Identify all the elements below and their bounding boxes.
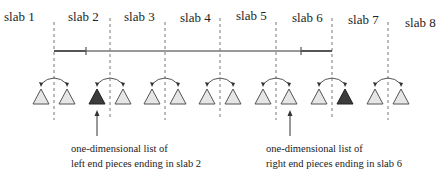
- slab-label: slab 3: [124, 9, 155, 24]
- slab-label: slab 1: [4, 9, 35, 24]
- subtree-left: [144, 89, 160, 104]
- highlighted-subtree-right: [337, 89, 353, 104]
- slab-label: slab 8: [405, 15, 436, 30]
- annotation-line: left end pieces ending in slab 2: [71, 158, 201, 169]
- edge-arrowhead-icon: [65, 82, 69, 87]
- edge-arrowhead-icon: [343, 82, 347, 87]
- tree-edge-right: [220, 78, 233, 84]
- subtree-right: [115, 89, 131, 104]
- slab-label: slab 2: [68, 9, 99, 24]
- tree-edge-right: [388, 78, 401, 84]
- annotation-line: one-dimensional list of: [71, 143, 168, 154]
- slab-label: slab 7: [348, 12, 379, 27]
- tree-edge-right: [332, 78, 345, 84]
- edge-arrowhead-icon: [399, 82, 403, 87]
- edge-arrowhead-icon: [231, 82, 235, 87]
- subtree-right: [225, 89, 241, 104]
- edge-arrowhead-icon: [287, 82, 291, 87]
- tree-edge-left: [375, 78, 388, 84]
- query-segment: [54, 47, 332, 55]
- tree-edge-right: [110, 78, 123, 84]
- arrow-up-icon: [95, 110, 100, 116]
- slab-label: slab 5: [236, 8, 267, 23]
- tree-edge-left: [263, 78, 276, 84]
- subtree-right: [59, 89, 75, 104]
- edge-arrowhead-icon: [176, 82, 180, 87]
- edge-arrowhead-icon: [121, 82, 125, 87]
- slab-label: slab 4: [180, 10, 211, 25]
- subtree-left: [255, 89, 271, 104]
- annotation: one-dimensional list ofright end pieces …: [266, 110, 402, 169]
- tree-edge-right: [165, 78, 178, 84]
- subtree-left: [311, 89, 327, 104]
- subtree-left: [367, 89, 383, 104]
- subtree-right: [281, 89, 297, 104]
- slab-diagram: slab 1slab 2slab 3slab 4slab 5slab 6slab…: [0, 0, 438, 181]
- annotations: one-dimensional list ofleft end pieces e…: [71, 110, 402, 169]
- annotation-line: one-dimensional list of: [266, 143, 363, 154]
- arrow-up-icon: [288, 110, 293, 116]
- boundary-trees: [33, 78, 409, 104]
- annotation-line: right end pieces ending in slab 6: [266, 158, 402, 169]
- subtree-left: [199, 89, 215, 104]
- tree-edge-right: [276, 78, 289, 84]
- slab-label: slab 6: [292, 10, 323, 25]
- tree-edge-right: [54, 78, 67, 84]
- annotation: one-dimensional list ofleft end pieces e…: [71, 110, 201, 169]
- subtree-right: [393, 89, 409, 104]
- highlighted-subtree-left: [89, 89, 105, 104]
- subtree-left: [33, 89, 49, 104]
- slab-boundaries: [54, 18, 388, 120]
- subtree-right: [170, 89, 186, 104]
- tree-edge-left: [319, 78, 332, 84]
